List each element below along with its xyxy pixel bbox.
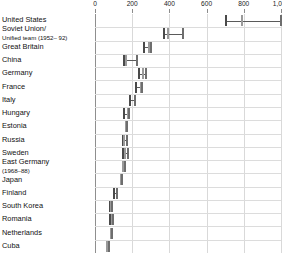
vertical-gridline-1000 <box>281 14 282 253</box>
medal-tick-marker[interactable] <box>141 82 143 93</box>
axis-tick-mark-800 <box>244 9 245 13</box>
medal-tick-marker[interactable] <box>129 95 131 106</box>
category-label: Russia <box>2 136 88 144</box>
data-row[interactable] <box>95 94 281 107</box>
category-label: Germany <box>2 69 88 77</box>
axis-tick-mark-1000 <box>281 9 282 13</box>
medal-tick-marker[interactable] <box>145 68 147 79</box>
medal-tick-marker[interactable] <box>127 148 129 159</box>
axis-tick-mark-400 <box>169 9 170 13</box>
category-label: China <box>2 56 88 64</box>
category-label: Cuba <box>2 242 88 250</box>
data-row[interactable] <box>95 14 281 27</box>
medal-tick-marker[interactable] <box>143 42 145 53</box>
category-label: Estonia <box>2 122 88 130</box>
medal-tick-marker[interactable] <box>182 28 184 39</box>
medal-tick-marker[interactable] <box>241 15 243 26</box>
category-label: Japan <box>2 176 88 184</box>
data-row[interactable] <box>95 200 281 213</box>
axis-tick-label-0: 0 <box>93 0 97 8</box>
data-row[interactable] <box>95 187 281 200</box>
data-row[interactable] <box>95 67 281 80</box>
medal-tick-marker[interactable] <box>163 28 165 39</box>
range-connector-line <box>226 21 281 22</box>
axis-tick-mark-600 <box>207 9 208 13</box>
medal-tick-marker[interactable] <box>112 214 114 225</box>
category-label-column: United StatesSoviet Union/Unified team (… <box>0 14 88 253</box>
axis-tick-label-400: 400 <box>164 0 175 8</box>
medal-tick-marker[interactable] <box>136 55 138 66</box>
data-row[interactable] <box>95 54 281 67</box>
data-row[interactable] <box>95 160 281 173</box>
category-label-line1: Soviet Union/ <box>2 25 88 33</box>
data-row[interactable] <box>95 41 281 54</box>
axis-tick-label-800: 800 <box>238 0 249 8</box>
medal-range-chart: 02004006008001,000 United StatesSoviet U… <box>0 0 282 253</box>
medal-tick-marker[interactable] <box>128 108 130 119</box>
axis-tick-mark-0 <box>95 9 96 13</box>
medal-tick-marker[interactable] <box>111 201 113 212</box>
category-label: Finland <box>2 189 88 197</box>
medal-tick-marker[interactable] <box>124 148 126 159</box>
medal-tick-marker[interactable] <box>111 228 113 239</box>
medal-tick-marker[interactable] <box>134 95 136 106</box>
category-label: South Korea <box>2 202 88 210</box>
category-label-line1: East Germany <box>2 158 88 166</box>
axis-tick-label-1000: 1,000 <box>273 0 282 8</box>
category-label: Soviet Union/Unified team (1952– 92) <box>2 25 88 42</box>
x-axis: 02004006008001,000 <box>0 0 282 14</box>
data-row[interactable] <box>95 120 281 133</box>
data-row[interactable] <box>95 213 281 226</box>
medal-tick-marker[interactable] <box>123 108 125 119</box>
axis-tick-label-200: 200 <box>127 0 138 8</box>
medal-tick-marker[interactable] <box>150 42 152 53</box>
category-label: Great Britain <box>2 43 88 51</box>
category-label: France <box>2 83 88 91</box>
axis-tick-label-600: 600 <box>201 0 212 8</box>
medal-tick-marker[interactable] <box>167 28 169 39</box>
medal-tick-marker[interactable] <box>126 121 128 132</box>
category-label: East Germany(1968–88) <box>2 158 88 175</box>
medal-tick-marker[interactable] <box>142 68 144 79</box>
category-label: Hungary <box>2 109 88 117</box>
plot-area <box>95 14 281 253</box>
axis-tick-mark-200 <box>132 9 133 13</box>
category-label-line2: (1968–88) <box>2 167 88 175</box>
data-row[interactable] <box>95 107 281 120</box>
medal-tick-marker[interactable] <box>280 15 282 26</box>
medal-tick-marker[interactable] <box>225 15 227 26</box>
data-row[interactable] <box>95 226 281 239</box>
data-row[interactable] <box>95 173 281 186</box>
data-row[interactable] <box>95 80 281 93</box>
medal-tick-marker[interactable] <box>123 135 125 146</box>
category-label: Italy <box>2 96 88 104</box>
category-label-line2: Unified team (1952– 92) <box>2 34 88 42</box>
medal-tick-marker[interactable] <box>121 174 123 185</box>
medal-tick-marker[interactable] <box>126 135 128 146</box>
data-row[interactable] <box>95 147 281 160</box>
medal-tick-marker[interactable] <box>125 55 127 66</box>
data-row[interactable] <box>95 134 281 147</box>
category-label: Romania <box>2 215 88 223</box>
medal-tick-marker[interactable] <box>135 82 137 93</box>
medal-tick-marker[interactable] <box>138 68 140 79</box>
data-row[interactable] <box>95 240 281 253</box>
data-row[interactable] <box>95 27 281 40</box>
category-label: Netherlands <box>2 229 88 237</box>
medal-tick-marker[interactable] <box>116 188 118 199</box>
medal-tick-marker[interactable] <box>124 161 126 172</box>
medal-tick-marker[interactable] <box>108 241 110 252</box>
